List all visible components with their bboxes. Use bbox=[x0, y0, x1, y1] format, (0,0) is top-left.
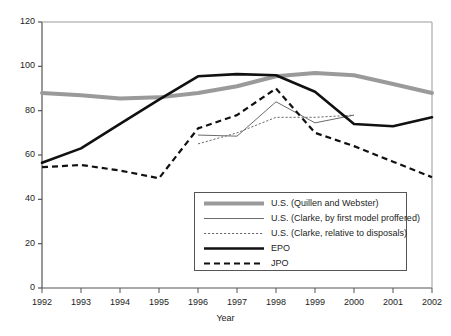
thin-solid-gray-swatch bbox=[203, 211, 265, 226]
series-line-1 bbox=[198, 102, 354, 136]
x-tick-label: 1993 bbox=[61, 298, 101, 307]
x-tick-label: 1996 bbox=[178, 298, 218, 307]
series-line-0 bbox=[42, 73, 432, 98]
x-tick-label: 2000 bbox=[334, 298, 374, 307]
x-tick-label: 1995 bbox=[139, 298, 179, 307]
thick-dashed-black-swatch bbox=[203, 256, 265, 271]
legend-label: U.S. (Quillen and Webster) bbox=[271, 198, 378, 209]
x-axis-title: Year bbox=[0, 313, 451, 323]
thick-solid-gray-swatch bbox=[203, 196, 265, 211]
chart-legend: U.S. (Quillen and Webster)U.S. (Clarke, … bbox=[194, 192, 407, 271]
x-tick-label: 1999 bbox=[295, 298, 335, 307]
legend-item: EPO bbox=[195, 241, 406, 256]
x-tick-label: 2002 bbox=[412, 298, 451, 307]
x-tick-label: 1992 bbox=[22, 298, 62, 307]
legend-label: JPO bbox=[271, 258, 289, 269]
legend-item: U.S. (Clarke, relative to disposals) bbox=[195, 226, 406, 241]
x-tick-label: 2001 bbox=[373, 298, 413, 307]
x-tick-label: 1997 bbox=[217, 298, 257, 307]
legend-label: EPO bbox=[271, 243, 290, 254]
y-tick-label: 0 bbox=[30, 283, 35, 292]
y-tick-label: 80 bbox=[25, 106, 35, 115]
y-tick-label: 120 bbox=[20, 17, 35, 26]
y-tick-label: 40 bbox=[25, 194, 35, 203]
x-tick-label: 1994 bbox=[100, 298, 140, 307]
y-tick-label: 60 bbox=[25, 150, 35, 159]
legend-item: U.S. (Clarke, by first model proffered) bbox=[195, 211, 406, 226]
plot-area bbox=[0, 0, 451, 336]
y-tick-label: 20 bbox=[25, 239, 35, 248]
legend-label: U.S. (Clarke, relative to disposals) bbox=[271, 228, 407, 239]
legend-item: JPO bbox=[195, 256, 406, 271]
series-line-4 bbox=[42, 89, 432, 179]
legend-label: U.S. (Clarke, by first model proffered) bbox=[271, 213, 420, 224]
thin-dotted-gray-swatch bbox=[203, 226, 265, 241]
legend-item: U.S. (Quillen and Webster) bbox=[195, 196, 406, 211]
line-chart: 020406080100120 199219931994199519961997… bbox=[0, 0, 451, 336]
y-tick-label: 100 bbox=[20, 61, 35, 70]
thick-solid-black-swatch bbox=[203, 241, 265, 256]
x-tick-label: 1998 bbox=[256, 298, 296, 307]
